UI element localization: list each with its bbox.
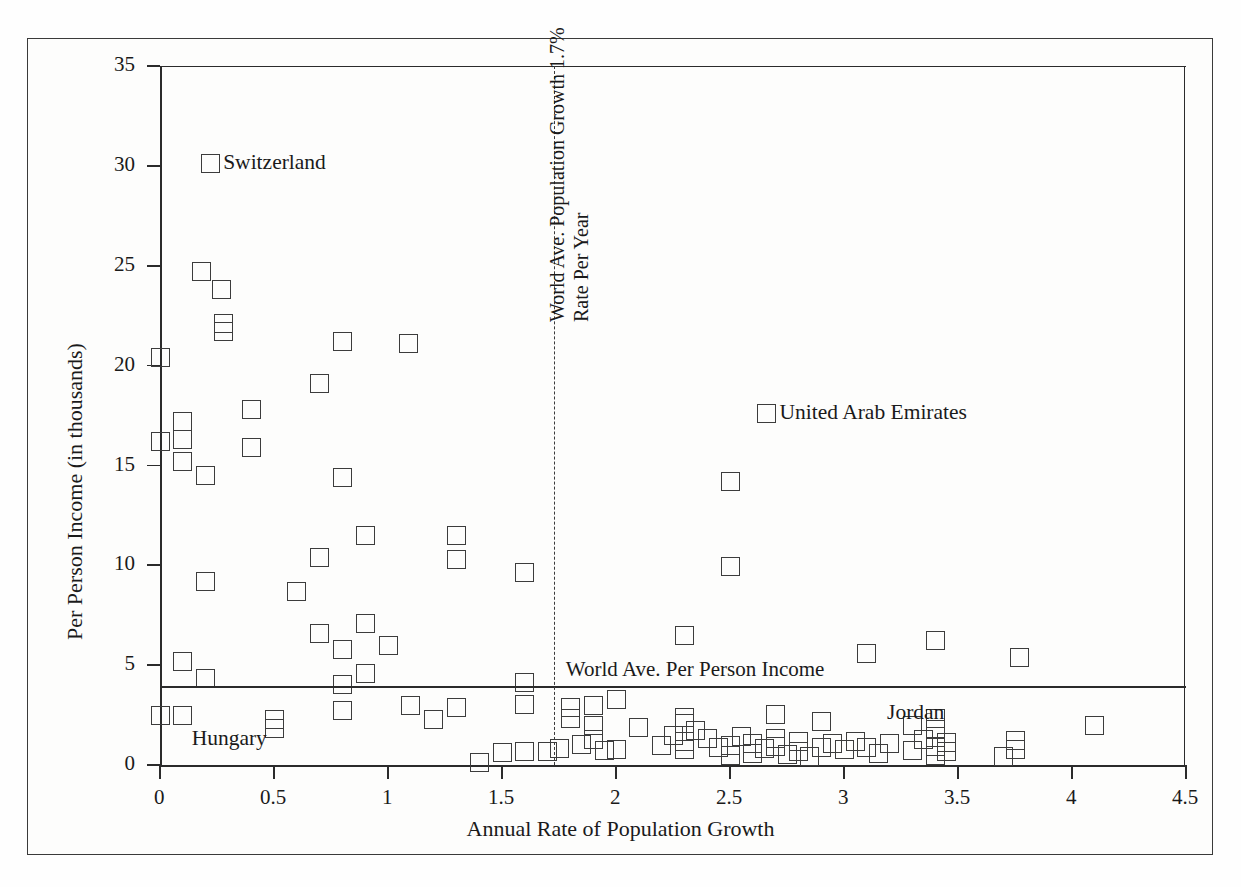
data-point-marker [447, 698, 466, 717]
data-point-marker [333, 701, 352, 720]
x-tick: 0 [159, 765, 161, 779]
annotation-hungary: Hungary [192, 726, 267, 751]
world-average-income-line [160, 686, 1186, 688]
data-point-marker [857, 644, 876, 663]
y-tick: 25 [147, 265, 160, 267]
x-tick: 3.5 [957, 765, 959, 779]
y-tick-label: 35 [114, 52, 135, 77]
data-point-marker [880, 734, 899, 753]
data-point-marker [675, 626, 694, 645]
data-point-marker [1006, 740, 1025, 759]
data-point-marker [173, 452, 192, 471]
data-point-marker [937, 742, 956, 761]
data-point-marker [151, 706, 170, 725]
x-tick-label: 3 [838, 785, 849, 810]
data-point-marker [242, 400, 261, 419]
x-tick-label: 1.5 [488, 785, 514, 810]
data-point-marker [310, 624, 329, 643]
x-tick: 3 [843, 765, 845, 779]
data-point-marker [333, 332, 352, 351]
data-point-marker [401, 696, 420, 715]
y-tick: 30 [147, 165, 160, 167]
plot-area: 05101520253035 00.511.522.533.544.5 Worl… [160, 66, 1186, 765]
x-tick-label: 4 [1066, 785, 1077, 810]
x-tick: 4 [1071, 765, 1073, 779]
data-point-marker [515, 695, 534, 714]
data-point-marker [1085, 716, 1104, 735]
data-point-marker [470, 753, 489, 772]
world-average-income-label: World Ave. Per Person Income [566, 657, 825, 682]
x-tick-label: 3.5 [944, 785, 970, 810]
data-point-marker [493, 743, 512, 762]
y-axis-line [160, 66, 162, 765]
data-point-marker [607, 740, 626, 759]
plot-right-border [1184, 66, 1185, 765]
data-point-marker [192, 262, 211, 281]
y-tick-label: 5 [125, 651, 136, 676]
y-tick-label: 20 [114, 352, 135, 377]
y-tick: 0 [147, 764, 160, 766]
world-average-growth-label-line2: Rate Per Year [570, 212, 593, 321]
data-point-marker [265, 719, 284, 738]
data-point-marker [757, 404, 776, 423]
data-point-marker [333, 468, 352, 487]
data-point-marker [212, 280, 231, 299]
x-tick-label: 2 [610, 785, 621, 810]
data-point-marker [379, 636, 398, 655]
x-tick: 1.5 [501, 765, 503, 779]
x-tick: 2 [615, 765, 617, 779]
data-point-marker [196, 466, 215, 485]
data-point-marker [515, 673, 534, 692]
data-point-marker [196, 669, 215, 688]
x-tick: 2.5 [729, 765, 731, 779]
data-point-marker [310, 548, 329, 567]
y-tick-label: 15 [114, 452, 135, 477]
data-point-marker [196, 572, 215, 591]
data-point-marker [333, 640, 352, 659]
x-axis-line [160, 765, 1186, 767]
data-point-marker [515, 563, 534, 582]
x-tick-label: 0 [154, 785, 165, 810]
data-point-marker [561, 709, 580, 728]
data-point-marker [515, 742, 534, 761]
data-point-marker [1010, 648, 1029, 667]
y-tick: 35 [147, 65, 160, 67]
annotation-switzerland: Switzerland [223, 150, 326, 175]
x-tick: 0.5 [273, 765, 275, 779]
x-tick: 4.5 [1185, 765, 1187, 779]
data-point-marker [173, 412, 192, 431]
data-point-marker [173, 430, 192, 449]
data-point-marker [242, 438, 261, 457]
data-point-marker [766, 705, 785, 724]
scatter-plot-figure: Per Person Income (in thousands) Annual … [0, 0, 1241, 887]
y-tick-label: 30 [114, 152, 135, 177]
data-point-marker [399, 334, 418, 353]
data-point-marker [151, 432, 170, 451]
data-point-marker [812, 712, 831, 731]
data-point-marker [214, 322, 233, 341]
x-axis-title: Annual Rate of Population Growth [0, 816, 1241, 842]
x-tick-label: 0.5 [260, 785, 286, 810]
data-point-marker [424, 710, 443, 729]
data-point-marker [584, 696, 603, 715]
data-point-marker [629, 718, 648, 737]
data-point-marker [356, 614, 375, 633]
x-tick: 1 [387, 765, 389, 779]
y-tick: 5 [147, 664, 160, 666]
data-point-marker [447, 550, 466, 569]
y-tick-label: 25 [114, 252, 135, 277]
data-point-marker [201, 154, 220, 173]
data-point-marker [675, 740, 694, 759]
data-point-marker [151, 348, 170, 367]
x-tick-label: 4.5 [1172, 785, 1198, 810]
annotation-jordan: Jordan [887, 700, 944, 725]
x-tick-label: 1 [382, 785, 393, 810]
data-point-marker [356, 664, 375, 683]
data-point-marker [173, 706, 192, 725]
data-point-marker [447, 526, 466, 545]
data-point-marker [356, 526, 375, 545]
data-point-marker [287, 582, 306, 601]
data-point-marker [333, 675, 352, 694]
data-point-marker [173, 652, 192, 671]
data-point-marker [550, 739, 569, 758]
